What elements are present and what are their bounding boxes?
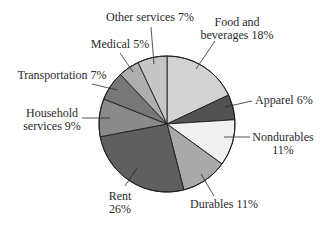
label-rent: Rent26% [109, 189, 132, 216]
label-medical: Medical 5% [91, 37, 149, 51]
label-other-services: Other services 7% [106, 10, 194, 24]
label-nondurables: Nondurables11% [252, 130, 314, 157]
pie-chart: Food andbeverages 18%Apparel 6%Nondurabl… [0, 0, 325, 225]
pie-slices [99, 56, 235, 192]
label-household-services: Householdservices 9% [23, 106, 81, 133]
label-apparel: Apparel 6% [255, 93, 313, 107]
label-transportation: Transportation 7% [17, 68, 106, 82]
label-food-and-beverages: Food andbeverages 18% [201, 15, 274, 42]
label-durables: Durables 11% [190, 197, 258, 211]
leader-line-food-and-beverages [196, 41, 215, 69]
